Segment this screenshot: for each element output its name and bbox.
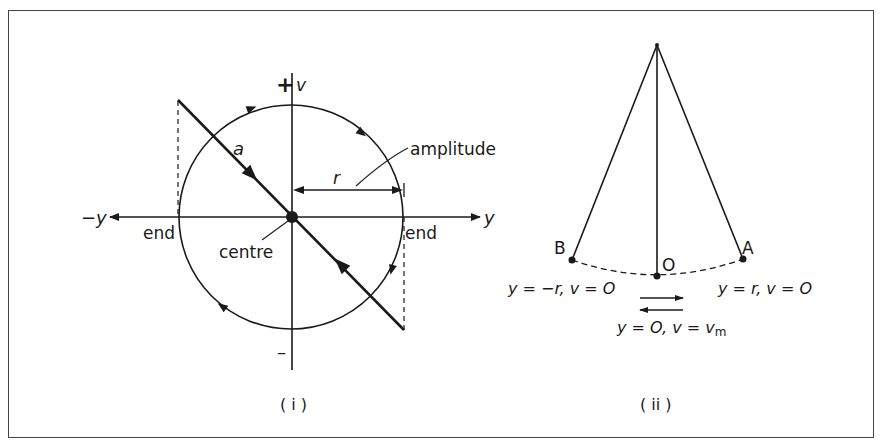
condition-at-A: y = r, v = O [717, 279, 812, 298]
condition-at-O: y = O, v = vm [616, 318, 726, 339]
acceleration-label: a [233, 138, 244, 159]
panel-ii-diagram: B O A y = −r, v = O y = r, v = O y = O, … [507, 43, 812, 414]
v-positive-label: + [276, 72, 294, 97]
centre-label: centre [219, 242, 273, 262]
y-positive-label: y [483, 207, 495, 228]
arrow-icon [356, 127, 369, 139]
condition-at-B: y = −r, v = O [507, 279, 615, 298]
radius-label: r [333, 168, 341, 188]
radius-arrow-left-icon [293, 186, 304, 194]
y-negative-label: −y [81, 207, 107, 228]
centre-leader-line [262, 221, 288, 240]
amplitude-leader-line [356, 148, 408, 186]
end-left-label: end [143, 223, 175, 243]
end-right-label: end [405, 223, 437, 243]
point-B-label: B [554, 238, 566, 258]
condition-at-O-main: y = O, v = v [616, 318, 715, 337]
panel-i-diagram: + v – y −y a r amplitude centre end end … [81, 72, 496, 414]
condition-at-O-subscript: m [715, 325, 727, 339]
panel-ii-caption: ( ii ) [640, 395, 672, 414]
figure-canvas: + v – y −y a r amplitude centre end end … [0, 0, 887, 447]
point-O-label: O [662, 255, 675, 275]
amplitude-label: amplitude [410, 139, 496, 159]
string-to-A [657, 45, 743, 259]
string-to-B [572, 45, 657, 260]
v-negative-label: – [277, 341, 286, 362]
point-A-label: A [742, 238, 754, 258]
bob-B [569, 257, 576, 264]
circle-direction-arrows [216, 103, 397, 312]
pivot-point [655, 43, 659, 47]
panel-i-caption: ( i ) [280, 395, 307, 414]
radius-arrow-right-icon [392, 186, 403, 194]
bob-O [654, 273, 661, 280]
v-axis-label: v [296, 75, 307, 95]
